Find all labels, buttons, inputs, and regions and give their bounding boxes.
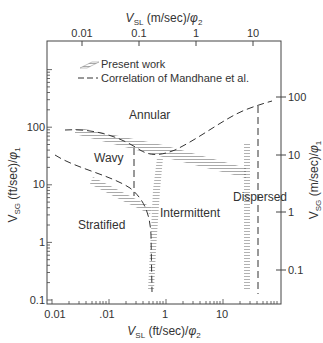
region-labels: Annular Wavy Stratified Intermittent Dis…	[78, 108, 287, 232]
top-tick-label: 1	[193, 27, 199, 39]
top-axis-title: VSL (m/sec)/φ2	[126, 11, 203, 27]
hatched-band-stratified	[90, 177, 153, 214]
region-intermittent: Intermittent	[160, 206, 221, 220]
hatched-band-dispersed	[244, 143, 250, 290]
bottom-axis-ticks	[52, 299, 277, 304]
left-axis-tick-labels: 0.1 1 10 100	[27, 121, 45, 306]
legend-hatch-swatch	[80, 62, 99, 68]
left-tick-label: 100	[27, 121, 45, 133]
legend: Present work Correlation of Mandhane et …	[78, 58, 249, 84]
top-tick-label: 10	[247, 27, 259, 39]
top-axis-ticks	[82, 41, 253, 46]
right-tick-label: 100	[288, 91, 306, 103]
right-tick-label: 0.1	[288, 264, 303, 276]
legend-present-work: Present work	[101, 58, 166, 70]
region-stratified: Stratified	[78, 218, 125, 232]
right-axis-title: VSG (m/sec)/φ1	[307, 140, 323, 219]
left-tick-label: 1	[39, 236, 45, 248]
left-tick-label: 0.1	[30, 294, 45, 306]
legend-mandhane: Correlation of Mandhane et al.	[101, 72, 249, 84]
region-annular: Annular	[129, 108, 170, 122]
left-axis-title: VSG (ft/sec)/φ1	[6, 147, 22, 223]
top-axis-tick-labels: 0.01 0.1 1 10	[71, 27, 259, 39]
right-tick-label: 1	[288, 206, 294, 218]
flow-pattern-chart: VSL (m/sec)/φ2 0.01 0.1 1 10	[0, 0, 323, 343]
right-axis-tick-labels: 0.1 1 10 100	[288, 91, 306, 276]
left-tick-label: 10	[33, 178, 45, 190]
top-tick-label: 0.01	[71, 27, 92, 39]
bottom-axis-title: VSL (ft/sec)/φ2	[127, 324, 201, 340]
bottom-tick-label: 10	[216, 308, 228, 320]
bottom-tick-label: 0.01	[44, 308, 65, 320]
right-tick-label: 10	[288, 149, 300, 161]
bottom-axis-tick-labels: 0.01 .01 1 10	[44, 308, 228, 320]
left-axis-ticks	[47, 70, 52, 300]
bottom-tick-label: 1	[162, 308, 168, 320]
region-wavy: Wavy	[94, 151, 124, 165]
top-tick-label: 0.1	[131, 27, 146, 39]
bottom-tick-label: .01	[99, 308, 114, 320]
region-dispersed: Dispersed	[233, 190, 287, 204]
